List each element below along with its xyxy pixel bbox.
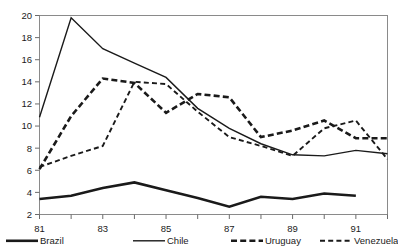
legend-label-chile: Chile — [167, 235, 189, 246]
chart-canvas: 2468101214161820 818385878991 BrazilChil… — [0, 0, 398, 251]
chart-legend: BrazilChileUruguayVenezuela — [6, 235, 398, 246]
x-axis-tick-label: 91 — [351, 223, 362, 234]
series-line-chile — [40, 18, 388, 156]
x-axis-tick-label: 87 — [224, 223, 235, 234]
x-axis-tick-label: 89 — [287, 223, 298, 234]
line-chart: 2468101214161820 818385878991 BrazilChil… — [0, 0, 398, 251]
plot-frame — [40, 16, 388, 215]
y-axis-tick-label: 8 — [27, 143, 32, 154]
y-axis-tick-label: 16 — [21, 54, 32, 65]
x-axis-tick-labels: 818385878991 — [34, 223, 361, 234]
series-line-brazil — [40, 182, 356, 206]
y-axis-tick-label: 10 — [21, 120, 32, 131]
y-axis-tick-label: 14 — [21, 76, 32, 87]
y-axis-tick-label: 2 — [27, 209, 32, 220]
x-axis-tick-label: 83 — [97, 223, 108, 234]
y-axis-tick-label: 20 — [21, 10, 32, 21]
x-axis-tick-label: 85 — [161, 223, 172, 234]
data-series-group — [40, 18, 388, 207]
y-axis-tick-label: 18 — [21, 32, 32, 43]
legend-label-venezuela: Venezuela — [354, 235, 398, 246]
y-axis-tick-label: 12 — [21, 98, 32, 109]
y-axis-tick-labels: 2468101214161820 — [21, 10, 32, 220]
legend-label-uruguay: Uruguay — [265, 235, 301, 246]
x-axis-tick-label: 81 — [34, 223, 45, 234]
legend-label-brazil: Brazil — [40, 235, 64, 246]
plot-area-border — [40, 16, 388, 215]
y-axis-tick-label: 6 — [27, 165, 32, 176]
y-axis-ticks — [35, 16, 40, 215]
x-axis-ticks — [40, 215, 388, 220]
y-axis-tick-label: 4 — [27, 187, 32, 198]
